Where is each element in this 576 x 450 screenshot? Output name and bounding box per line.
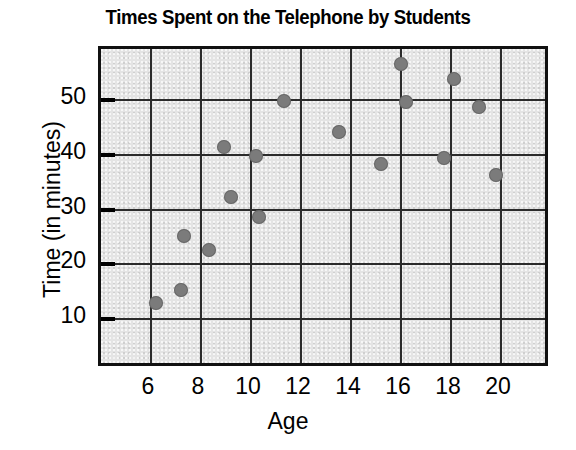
y-tick-mark — [101, 208, 115, 212]
data-point — [447, 72, 461, 86]
gridline-vertical — [350, 49, 352, 363]
gridline-horizontal — [101, 318, 545, 320]
data-point — [332, 125, 346, 139]
data-point — [399, 95, 413, 109]
gridline-vertical — [300, 49, 302, 363]
data-point — [472, 100, 486, 114]
data-point — [437, 151, 451, 165]
y-tick-mark — [101, 98, 115, 102]
plot-background-texture — [101, 49, 545, 363]
gridline-horizontal — [101, 154, 545, 156]
gridline-horizontal — [101, 263, 545, 265]
y-tick-mark — [101, 317, 115, 321]
gridline-horizontal — [101, 209, 545, 211]
x-axis-title: Age — [0, 408, 576, 435]
gridline-vertical — [150, 49, 152, 363]
data-point — [249, 149, 263, 163]
x-tick-label: 20 — [468, 375, 528, 398]
data-point — [149, 296, 163, 310]
data-point — [217, 140, 231, 154]
data-point — [489, 168, 503, 182]
y-tick-mark — [101, 153, 115, 157]
gridline-vertical — [450, 49, 452, 363]
plot-area — [98, 46, 548, 366]
data-point — [277, 94, 291, 108]
scatter-plot-figure: Times Spent on the Telephone by Students… — [0, 0, 576, 450]
chart-title: Times Spent on the Telephone by Students — [20, 6, 556, 29]
gridline-vertical — [250, 49, 252, 363]
data-point — [174, 283, 188, 297]
gridline-vertical — [500, 49, 502, 363]
data-point — [374, 157, 388, 171]
y-tick-mark — [101, 262, 115, 266]
data-point — [394, 57, 408, 71]
data-point — [202, 243, 216, 257]
gridline-vertical — [200, 49, 202, 363]
data-point — [224, 190, 238, 204]
data-point — [252, 210, 266, 224]
y-axis-title: Time (in minutes) — [39, 80, 66, 340]
data-point — [177, 229, 191, 243]
